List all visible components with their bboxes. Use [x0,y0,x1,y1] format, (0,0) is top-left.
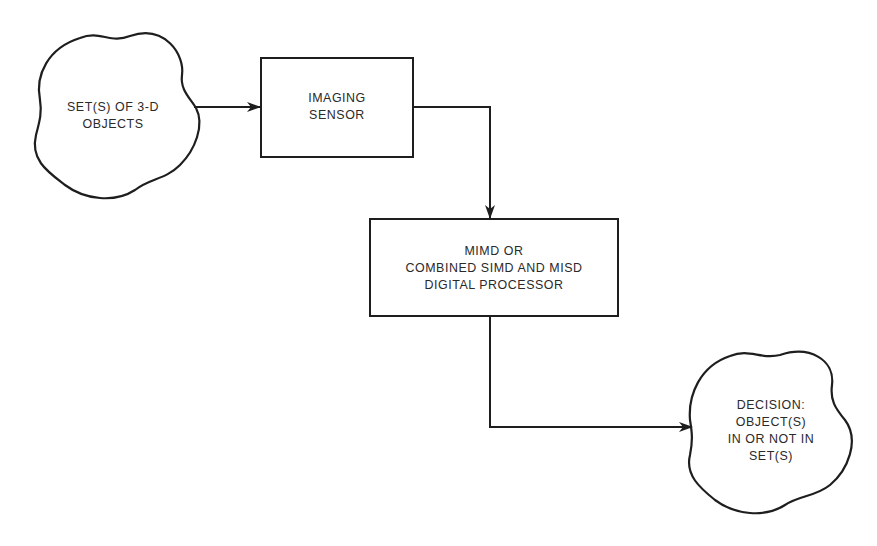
edge-sensor-to-processor [413,107,490,218]
input-label-line-1: SET(S) OF 3-D [44,98,182,115]
edge-processor-to-decision [490,316,692,427]
processor-label-line-1: MIMD OR [380,242,608,259]
decision-label-line-3: IN OR NOT IN [702,430,840,447]
sensor-label-line-2: SENSOR [267,106,407,123]
input-cloud-label: SET(S) OF 3-D OBJECTS [44,98,182,132]
processor-box-label: MIMD OR COMBINED SIMD AND MISD DIGITAL P… [380,242,608,293]
decision-label-line-2: OBJECT(S) [702,413,840,430]
processor-label-line-3: DIGITAL PROCESSOR [380,276,608,293]
input-label-line-2: OBJECTS [44,115,182,132]
sensor-label-line-1: IMAGING [267,89,407,106]
decision-label-line-4: SET(S) [702,447,840,464]
processor-label-line-2: COMBINED SIMD AND MISD [380,259,608,276]
decision-label-line-1: DECISION: [702,396,840,413]
decision-cloud-label: DECISION: OBJECT(S) IN OR NOT IN SET(S) [702,396,840,464]
sensor-box-label: IMAGING SENSOR [267,89,407,123]
